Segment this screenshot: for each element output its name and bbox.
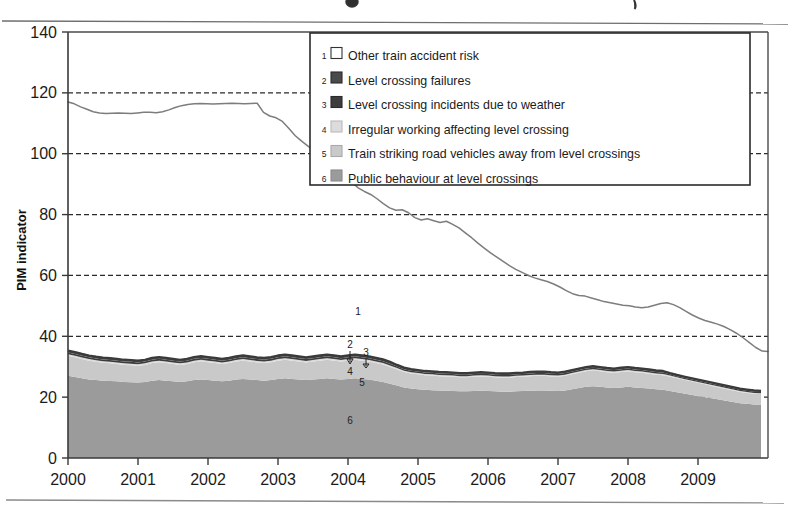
x-tick-label-2004: 2004 [330,471,366,488]
x-tick-label-2008: 2008 [610,471,646,488]
legend-label-4: Irregular working affecting level crossi… [348,123,569,137]
plot-annotation-4: 4 [347,366,353,377]
plot-annotation-label-4: 4 [347,366,353,377]
x-tick-label-2003: 2003 [260,471,296,488]
plot-annotation-2: 2 [347,339,353,364]
page-scan-fragments [347,0,636,9]
y-tick-label-80: 80 [39,206,57,223]
legend-swatch-4 [331,121,342,132]
x-tick-label-2009: 2009 [680,471,716,488]
x-tick-group: 2000200120022003200420052006200720082009 [50,458,716,488]
x-tick-label-2005: 2005 [400,471,436,488]
y-tick-label-0: 0 [48,450,57,467]
legend-swatch-1 [331,48,342,59]
page-rule-bottom [6,500,784,503]
x-tick-label-2001: 2001 [120,471,156,488]
y-tick-label-20: 20 [39,389,57,406]
legend-number-2: 2 [322,76,327,86]
legend-number-1: 1 [322,51,327,61]
x-tick-label-2002: 2002 [190,471,226,488]
legend-number-5: 5 [322,149,327,159]
y-tick-group: 020406080100120140 [30,24,68,467]
plot-annotation-label-5: 5 [359,377,365,388]
pim-indicator-stacked-area-chart: 020406080100120140 200020012002200320042… [0,0,790,518]
plot-annotation-3: 3 [363,347,369,368]
legend-swatch-3 [331,97,342,108]
page-rule-top [2,21,788,24]
y-tick-label-140: 140 [30,24,57,41]
legend-swatch-5 [331,146,342,157]
legend-swatch-2 [331,72,342,83]
y-tick-label-120: 120 [30,84,57,101]
legend-label-2: Level crossing failures [348,74,471,88]
y-tick-label-60: 60 [39,267,57,284]
legend-label-6: Public behaviour at level crossings [348,172,538,186]
stacked-areas-group [68,351,761,458]
legend-label-3: Level crossing incidents due to weather [348,98,565,112]
legend-number-4: 4 [322,125,327,135]
plot-annotation-6: 6 [347,415,353,426]
plot-annotation-label-1: 1 [355,306,361,317]
x-tick-label-2000: 2000 [50,471,86,488]
plot-annotation-5: 5 [359,377,365,388]
legend-number-6: 6 [322,174,327,184]
figure-container: 020406080100120140 200020012002200320042… [0,0,790,518]
legend-swatch-6 [331,170,342,181]
x-tick-label-2007: 2007 [540,471,576,488]
y-tick-label-40: 40 [39,328,57,345]
x-tick-label-2006: 2006 [470,471,506,488]
plot-annotation-label-3: 3 [363,347,369,358]
chart-legend: 1Other train accident risk2Level crossin… [310,33,750,186]
legend-label-5: Train striking road vehicles away from l… [348,147,640,161]
plot-annotation-label-6: 6 [347,415,353,426]
plot-annotation-1: 1 [355,306,361,317]
legend-label-1: Other train accident risk [348,49,480,63]
legend-number-3: 3 [322,100,327,110]
y-tick-label-100: 100 [30,145,57,162]
y-axis-title: PIM indicator [14,209,29,291]
plot-annotation-label-2: 2 [347,339,353,350]
